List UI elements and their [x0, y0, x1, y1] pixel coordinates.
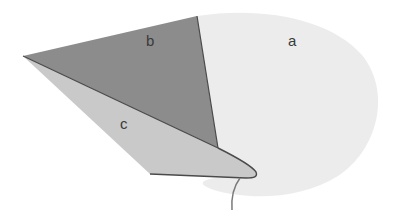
- region-b-label: b: [146, 33, 154, 48]
- region-a-label: a: [288, 33, 296, 48]
- diagram-svg: [0, 0, 393, 224]
- region-c-label: c: [120, 116, 128, 131]
- diagram-canvas: a b c: [0, 0, 393, 224]
